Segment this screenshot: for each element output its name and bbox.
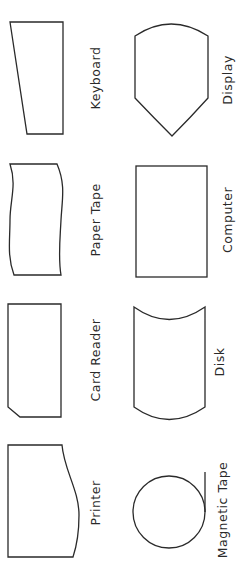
- paper-tape-symbol: Paper Tape: [9, 164, 103, 275]
- display-label: Display: [220, 55, 235, 105]
- disk-label: Disk: [212, 347, 227, 376]
- card-reader-label: Card Reader: [88, 318, 103, 401]
- magnetic-tape-symbol: Magnetic Tape: [133, 462, 230, 559]
- computer-label: Computer: [220, 187, 235, 254]
- keyboard-shape: [10, 22, 63, 134]
- computer-symbol: Computer: [136, 166, 235, 277]
- printer-symbol: Printer: [8, 445, 103, 557]
- card-reader-symbol: Card Reader: [8, 304, 103, 417]
- card-reader-shape: [8, 304, 61, 417]
- display-symbol: Display: [135, 24, 235, 136]
- flowchart-symbols-diagram: Keyboard Display Paper Tape Computer Car…: [0, 0, 246, 576]
- disk-symbol: Disk: [134, 307, 227, 420]
- keyboard-label: Keyboard: [88, 47, 103, 110]
- printer-label: Printer: [88, 480, 103, 525]
- keyboard-symbol: Keyboard: [10, 22, 103, 134]
- disk-shape: [134, 307, 205, 420]
- magnetic-tape-shape: [133, 476, 205, 548]
- magnetic-tape-label: Magnetic Tape: [215, 462, 230, 559]
- display-shape: [135, 24, 208, 136]
- printer-shape: [8, 445, 79, 557]
- computer-shape: [136, 166, 207, 277]
- paper-tape-shape: [9, 164, 62, 275]
- paper-tape-label: Paper Tape: [88, 183, 103, 256]
